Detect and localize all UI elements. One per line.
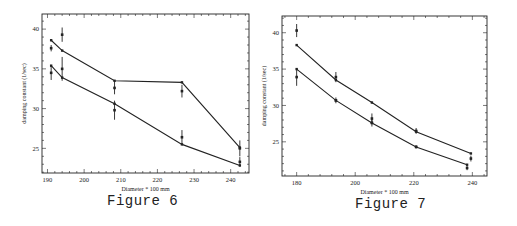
fit-line xyxy=(297,45,471,153)
x-axis-label: Diameter * 100 mm xyxy=(360,189,408,195)
data-point xyxy=(371,122,374,125)
figure-7: 18020022024025303540Diameter * 100 mmdam… xyxy=(0,0,517,226)
data-point xyxy=(466,167,469,170)
fit-line xyxy=(297,69,467,165)
data-point xyxy=(295,29,298,32)
data-point xyxy=(415,130,418,133)
x-tick-label: 240 xyxy=(467,179,477,186)
data-point xyxy=(335,76,338,79)
figure-7-caption: Figure 7 xyxy=(355,196,426,212)
fit-marker xyxy=(295,44,297,46)
x-tick-label: 220 xyxy=(409,179,419,186)
x-tick-label: 180 xyxy=(292,179,302,186)
data-point xyxy=(335,99,338,102)
data-point xyxy=(470,157,473,160)
y-axis-label: damping constant (1/sec) xyxy=(261,66,268,126)
plot-frame xyxy=(282,16,487,176)
y-tick-label: 35 xyxy=(273,65,280,72)
y-tick-label: 30 xyxy=(273,102,280,109)
y-tick-label: 40 xyxy=(273,29,280,36)
fit-marker xyxy=(470,152,472,154)
data-point xyxy=(415,146,418,149)
y-tick-label: 25 xyxy=(273,138,280,145)
figure-7-chart: 18020022024025303540Diameter * 100 mmdam… xyxy=(0,0,517,226)
x-tick-label: 200 xyxy=(350,179,360,186)
fit-marker xyxy=(466,164,468,166)
fit-marker xyxy=(371,101,373,103)
data-point xyxy=(295,76,298,79)
